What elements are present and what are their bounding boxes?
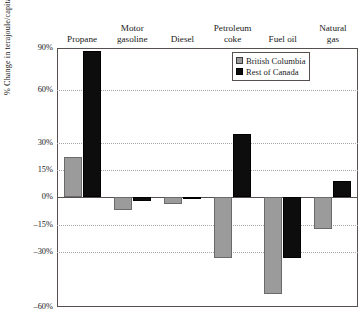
bar [83, 51, 101, 197]
x-axis-category-label-line: Petroleum [199, 23, 267, 34]
gridline [57, 143, 358, 144]
bar [314, 197, 332, 229]
gridline [57, 90, 358, 91]
bar-chart: % Change in terajoule/capita 90%60%30%15… [0, 0, 363, 329]
bar [333, 181, 351, 197]
legend-label-british-columbia: British Columbia [246, 56, 305, 66]
x-axis-category-label: Naturalgas [299, 23, 363, 44]
legend: British Columbia Rest of Canada [232, 52, 310, 81]
bar [133, 197, 151, 201]
gridline [57, 252, 358, 253]
legend-label-rest-of-canada: Rest of Canada [246, 67, 299, 77]
bar [233, 134, 251, 197]
bar [264, 197, 282, 294]
gridline [57, 170, 358, 171]
y-axis-tick-label: –60% [5, 302, 53, 311]
bar [114, 197, 132, 210]
y-axis-tick-label: 30% [5, 138, 53, 147]
y-axis-tick-label: –15% [5, 220, 53, 229]
bar [164, 197, 182, 204]
legend-item: Rest of Canada [236, 66, 305, 77]
y-axis-tick-label: 90% [5, 43, 53, 52]
bar [214, 197, 232, 258]
y-axis-tick-label: 0% [5, 192, 53, 201]
legend-swatch-british-columbia [236, 57, 243, 64]
gridline [57, 225, 358, 226]
y-axis-tick-label: –30% [5, 247, 53, 256]
x-axis-category-label-line: Natural [299, 23, 363, 34]
y-axis-tick-label: 15% [5, 165, 53, 174]
x-axis-category-label-line: Motor [98, 23, 166, 34]
legend-item: British Columbia [236, 55, 305, 66]
y-axis-tick-label: 60% [5, 85, 53, 94]
legend-swatch-rest-of-canada [236, 68, 243, 75]
plot-area [57, 48, 358, 307]
zero-baseline [57, 197, 358, 198]
bar [283, 197, 301, 258]
bar [183, 197, 201, 199]
bar [64, 157, 82, 197]
x-axis-category-label-line: gas [299, 34, 363, 45]
